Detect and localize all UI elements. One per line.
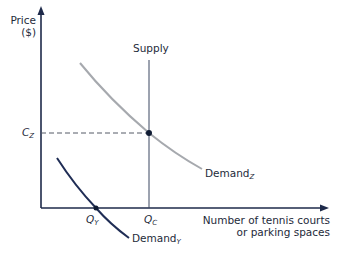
x-axis-label: Number of tennis courts or parking space… [190, 214, 330, 238]
demand-z-base: Demand [205, 167, 250, 179]
supply-label: Supply [133, 42, 169, 54]
qc-sub: C [152, 219, 157, 227]
x-axis-arrow-icon [320, 205, 329, 212]
quantity-qy-label: QY [86, 213, 99, 225]
x-axis-label-line2: or parking spaces [190, 226, 330, 238]
demand-z-curve [80, 63, 202, 169]
qy-sub: Y [94, 219, 98, 227]
cz-sub: Z [29, 132, 34, 140]
demand-y-base: Demand [132, 232, 177, 244]
qy-point [94, 206, 99, 211]
demand-z-label: DemandZ [205, 167, 254, 179]
y-axis-arrow-icon [38, 6, 45, 15]
demand-y-curve [57, 158, 129, 238]
y-axis-label: Price ($) [6, 14, 36, 38]
x-axis-label-line1: Number of tennis courts [190, 214, 330, 226]
demand-z-sub: Z [250, 173, 255, 181]
quantity-qc-label: QC [144, 213, 157, 225]
y-axis-label-line1: Price [6, 14, 36, 26]
demand-y-sub: Y [177, 238, 181, 246]
y-axis-label-line2: ($) [6, 26, 36, 38]
demand-y-label: DemandY [132, 232, 181, 244]
price-cz-label: CZ [22, 126, 34, 138]
equilibrium-point [146, 130, 152, 136]
